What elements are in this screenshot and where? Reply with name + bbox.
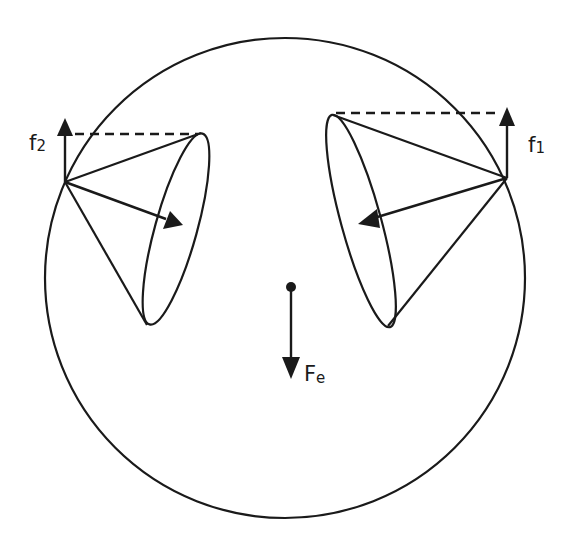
force-diagram: f2 f1 Fe — [0, 0, 569, 545]
right-cone-upper-edge — [333, 115, 507, 178]
left-cone-axis-arrowhead-icon — [163, 211, 183, 229]
f1-arrowhead-icon — [499, 107, 515, 126]
right-cone-lower-edge — [388, 178, 507, 326]
left-cone-axis-shaft — [65, 182, 166, 219]
f1-label: f1 — [528, 133, 545, 157]
right-cone-base-ellipse — [313, 110, 410, 333]
right-cone: f1 — [313, 107, 545, 332]
f2-arrowhead-icon — [57, 118, 73, 136]
left-cone: f2 — [29, 118, 223, 330]
left-cone-base-ellipse — [129, 128, 222, 330]
outer-sphere — [45, 38, 525, 518]
fe-arrowhead-icon — [282, 357, 300, 379]
left-cone-lower-edge — [65, 182, 147, 325]
right-cone-axis-arrowhead-icon — [358, 209, 380, 228]
f2-label: f2 — [29, 131, 46, 155]
fe-label: Fe — [304, 362, 325, 387]
right-cone-axis-shaft — [374, 178, 507, 218]
center-force: Fe — [282, 282, 325, 387]
